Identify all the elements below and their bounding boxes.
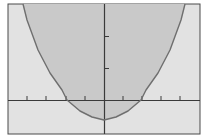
graph-plot	[0, 0, 207, 137]
